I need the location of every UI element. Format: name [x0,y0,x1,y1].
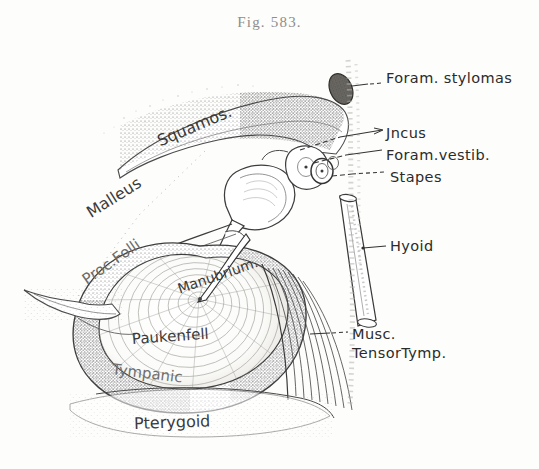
label-stapes: Stapes [390,169,442,185]
label-pterygoid: Pterygoid [134,411,211,433]
label-incus: Jncus [386,125,426,141]
figure-caption: Fig. 583. [0,14,539,31]
label-tensor-tymp: TensorTymp. [352,345,446,361]
stapes [311,159,333,184]
label-foram-stylomas: Foram. stylomas [386,70,512,86]
label-musc: Musc. [352,326,396,342]
label-foram-vestib: Foram.vestib. [386,147,490,163]
label-hyoid: Hyoid [390,238,434,254]
hyoid-bone [339,193,377,328]
